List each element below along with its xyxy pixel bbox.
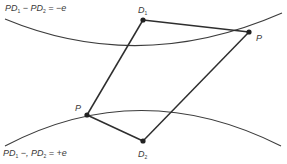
d1-point — [140, 17, 145, 22]
edge-p-left-d2 — [87, 115, 143, 141]
lower-equation-label: PD1 −, PD2 = +e — [3, 149, 67, 159]
d1-label-sub: 1 — [145, 10, 148, 16]
eq-bottom-rhs: = +e — [46, 148, 67, 158]
hyperbola-diagram: PD1 − PD2 = −e PD1 −, PD2 = +e D1 P P D2 — [0, 0, 287, 164]
d2-point — [140, 138, 145, 143]
d2-label-sub: 2 — [145, 154, 148, 160]
p-left-label: P — [75, 104, 81, 113]
upper-equation-label: PD1 − PD2 = −e — [5, 4, 66, 14]
eq-top-rhs: = −e — [46, 3, 67, 13]
eq-bottom-pd1: PD — [3, 148, 16, 158]
eq-bottom-mid: −, PD — [18, 148, 43, 158]
edge-d1-p-right — [143, 20, 249, 32]
p-left-point — [84, 112, 89, 117]
edge-d1-p-left — [87, 20, 143, 115]
d2-label: D2 — [138, 150, 147, 160]
diagram-graphics — [0, 0, 287, 164]
eq-top-pd1: PD — [5, 3, 18, 13]
p-right-label-text: P — [256, 33, 262, 43]
eq-top-mid: − PD — [20, 3, 43, 13]
edge-d2-p-right — [143, 32, 249, 141]
d1-label: D1 — [138, 6, 147, 16]
p-right-label: P — [256, 34, 262, 43]
p-left-label-text: P — [75, 103, 81, 113]
p-right-point — [246, 29, 251, 34]
